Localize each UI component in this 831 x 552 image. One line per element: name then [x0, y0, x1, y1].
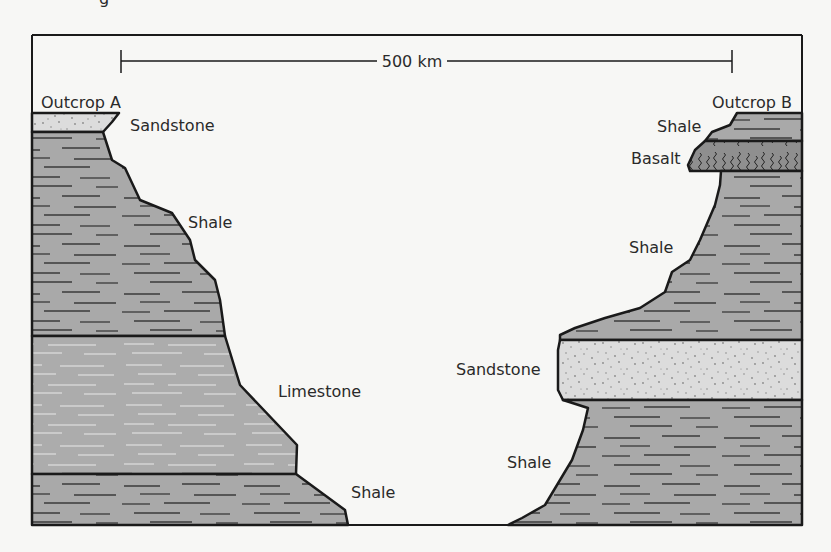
heading-fragment: g: [99, 0, 109, 8]
outcrop-a-sandstone-layer: [32, 113, 119, 132]
outcrop-b-shale-bottom-layer: [508, 400, 802, 525]
scale-label: 500 km: [382, 52, 442, 71]
scale-bar: 500 km: [121, 50, 732, 73]
stratigraphy-diagram: g 500 km Outcrop A Outcrop B Sandstone S…: [0, 0, 831, 552]
label-b-shale-top: Shale: [657, 117, 701, 136]
label-b-shale-mid: Shale: [629, 238, 673, 257]
label-outcrop-b: Outcrop B: [712, 93, 792, 112]
label-outcrop-a: Outcrop A: [41, 93, 121, 112]
outcrop-b-shale-top-layer: [705, 113, 802, 141]
outcrop-b: [508, 113, 802, 525]
label-a-shale-upper: Shale: [188, 213, 232, 232]
outcrop-a: [32, 113, 348, 525]
outcrop-b-basalt-layer: [688, 141, 802, 171]
outcrop-b-shale-mid-layer: [560, 171, 802, 340]
outcrop-b-sandstone-layer: [558, 340, 802, 400]
label-a-sandstone: Sandstone: [130, 116, 215, 135]
label-b-shale-bottom: Shale: [507, 453, 551, 472]
label-a-shale-lower: Shale: [351, 483, 395, 502]
outcrop-a-limestone-layer: [32, 336, 297, 474]
label-b-basalt: Basalt: [631, 149, 681, 168]
outcrop-a-shale-lower-layer: [32, 474, 348, 525]
outcrop-a-shale-upper-layer: [32, 132, 225, 336]
label-b-sandstone: Sandstone: [456, 360, 541, 379]
label-a-limestone: Limestone: [278, 382, 361, 401]
